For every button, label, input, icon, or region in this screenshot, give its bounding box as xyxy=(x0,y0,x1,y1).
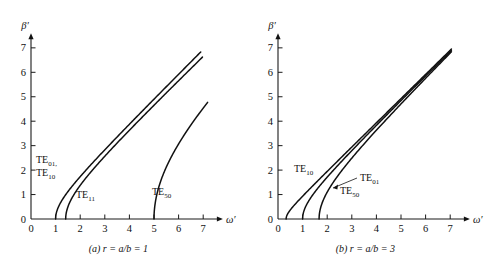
x-tick-label: 2 xyxy=(78,223,83,234)
y-tick-label: 6 xyxy=(268,67,273,78)
x-tick-label: 1 xyxy=(300,223,305,234)
y-tick-label: 0 xyxy=(268,214,273,225)
panel-caption-b: (b) r = a/b = 3 xyxy=(336,243,395,255)
x-tick-label: 6 xyxy=(423,223,428,234)
mode-label-te11: TE11 xyxy=(76,189,95,203)
mode-label-subscript: 50 xyxy=(352,191,360,199)
mode-label-te10: TE10 xyxy=(294,163,314,177)
x-tick-label: 7 xyxy=(448,223,453,234)
panel-caption-prefix: (b) xyxy=(336,243,350,255)
y-tick-label: 4 xyxy=(268,116,274,127)
x-tick-label: 1 xyxy=(53,223,58,234)
y-tick-label: 3 xyxy=(21,140,26,151)
mode-label-te10: TE10 xyxy=(36,167,56,181)
panel-caption-a: (a) r = a/b = 1 xyxy=(89,243,148,255)
mode-label-subscript: 10 xyxy=(306,169,314,177)
mode-label-te01: TE01 xyxy=(360,172,380,186)
mode-label-subscript: 11 xyxy=(88,195,95,203)
x-axis-title: ω′ xyxy=(473,214,483,225)
mode-label-base: TE xyxy=(76,189,88,200)
mode-label-base: TE xyxy=(36,167,48,178)
figure-dispersion-curves: 0123456701234567ω′β′TE01,TE10TE11TE50(a)… xyxy=(0,0,497,276)
y-tick-label: 4 xyxy=(21,116,27,127)
y-tick-label: 5 xyxy=(21,91,26,102)
y-axis-title: β′ xyxy=(20,20,29,31)
x-tick-label: 3 xyxy=(102,223,107,234)
mode-label-te50: TE50 xyxy=(340,185,360,199)
panel-caption-body: r = a/b = 1 xyxy=(103,243,148,254)
y-tick-label: 6 xyxy=(21,67,26,78)
mode-label-subscript: 50 xyxy=(164,192,172,200)
x-tick-label: 0 xyxy=(28,223,33,234)
curve-te50 xyxy=(154,102,208,219)
y-axis-arrow xyxy=(275,33,280,39)
figure-canvas: 0123456701234567ω′β′TE01,TE10TE11TE50(a)… xyxy=(0,0,497,276)
x-tick-label: 4 xyxy=(374,223,380,234)
mode-label-base: TE xyxy=(294,163,306,174)
y-tick-label: 7 xyxy=(21,42,26,53)
mode-label-subscript: 01 xyxy=(372,178,380,186)
y-axis-title: β′ xyxy=(267,20,276,31)
y-tick-label: 0 xyxy=(21,214,26,225)
mode-label-base: TE xyxy=(152,186,164,197)
x-tick-label: 5 xyxy=(398,223,403,234)
y-tick-label: 1 xyxy=(21,189,26,200)
y-tick-label: 3 xyxy=(268,140,273,151)
mode-label-subscript: 10 xyxy=(48,173,56,181)
mode-label-base: TE xyxy=(36,154,48,165)
x-tick-label: 4 xyxy=(127,223,133,234)
x-tick-label: 7 xyxy=(201,223,206,234)
x-tick-label: 0 xyxy=(275,223,280,234)
panel-caption-body: r = a/b = 3 xyxy=(350,243,395,254)
x-axis-arrow xyxy=(464,216,470,221)
y-tick-label: 2 xyxy=(21,165,26,176)
mode-label-base: TE xyxy=(360,172,372,183)
panel-a: 0123456701234567ω′β′TE01,TE10TE11TE50(a)… xyxy=(20,20,236,255)
mode-label-base: TE xyxy=(340,185,352,196)
y-tick-label: 7 xyxy=(268,42,273,53)
x-axis-title: ω′ xyxy=(226,214,236,225)
panel-b: 0123456701234567ω′β′TE10TE01TE50(b) r = … xyxy=(267,20,483,255)
mode-label-te50: TE50 xyxy=(152,186,172,200)
y-tick-label: 5 xyxy=(268,91,273,102)
panels-group: 0123456701234567ω′β′TE01,TE10TE11TE50(a)… xyxy=(20,20,483,255)
y-axis-arrow xyxy=(28,33,33,39)
mode-label-subscript: 01, xyxy=(48,160,57,168)
x-tick-label: 5 xyxy=(151,223,156,234)
x-tick-label: 2 xyxy=(325,223,330,234)
te01-leader-arrow xyxy=(333,185,338,190)
y-tick-label: 1 xyxy=(268,189,273,200)
panel-caption-prefix: (a) xyxy=(89,243,103,255)
curve-te50 xyxy=(319,52,451,219)
y-tick-label: 2 xyxy=(268,165,273,176)
x-tick-label: 6 xyxy=(176,223,181,234)
mode-label-te01: TE01, xyxy=(36,154,57,168)
x-tick-label: 3 xyxy=(349,223,354,234)
x-axis-arrow xyxy=(217,216,223,221)
